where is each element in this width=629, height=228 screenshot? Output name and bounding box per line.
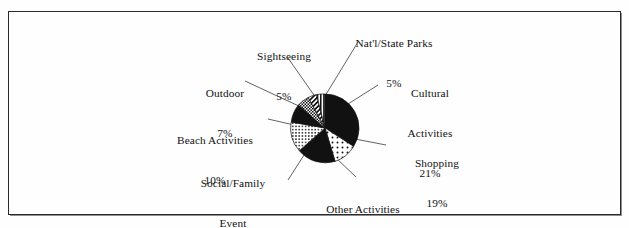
- leader-line-social-family-event: [288, 152, 306, 180]
- pie-label-other-activities: Other Activities 18%: [306, 177, 420, 228]
- chart-page: Sightseeing 5% Nat'l/State Parks 5% Outd…: [0, 0, 629, 228]
- leader-line-other-activities: [336, 158, 356, 177]
- pie-label-cultural-activities-name-1: Cultural: [380, 87, 480, 100]
- pie-label-social-family-event-name-2: Event: [178, 217, 288, 228]
- pie-label-social-family-event-name-1: Social/Family: [178, 177, 288, 190]
- pie-label-shopping-name: Shopping: [394, 157, 480, 170]
- pie-label-social-family-event: Social/Family Event 15%: [178, 151, 288, 228]
- pie-label-outdoor-name: Outdoor: [182, 87, 268, 100]
- pie-label-beach-activities-name: Beach Activities: [160, 134, 270, 147]
- pie-label-other-activities-name: Other Activities: [306, 203, 420, 216]
- pie-label-natl-state-parks-name: Nat'l/State Parks: [330, 37, 458, 50]
